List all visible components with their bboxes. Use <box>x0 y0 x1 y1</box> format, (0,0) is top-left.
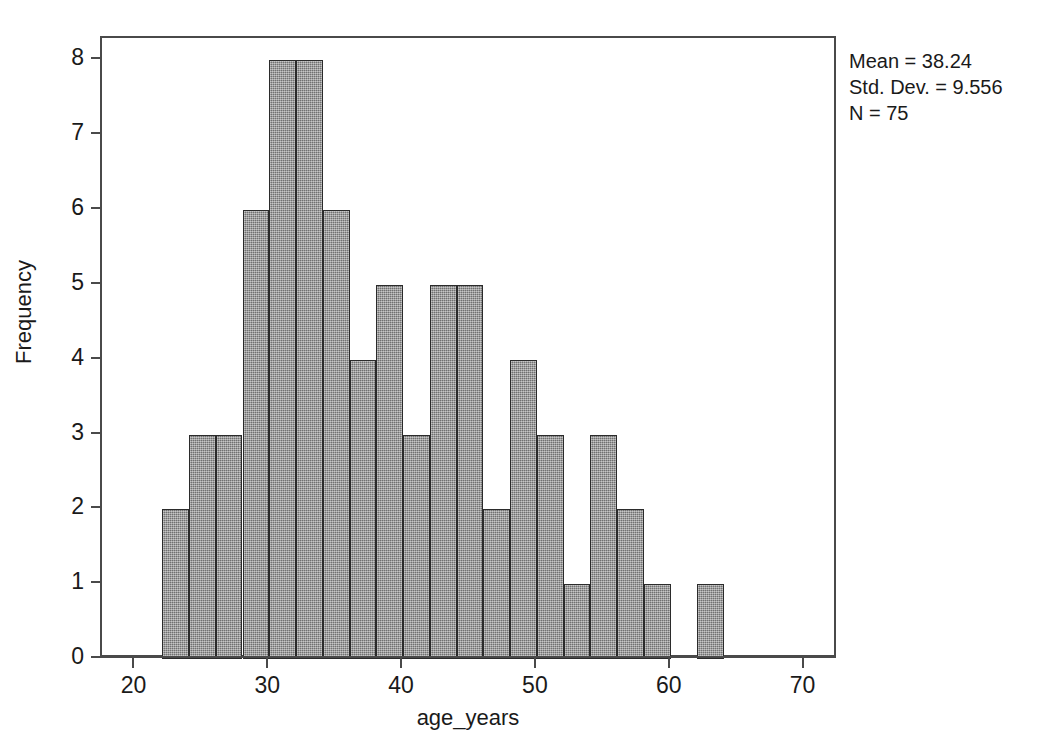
histogram-bar <box>350 360 377 659</box>
y-tick-mark <box>91 656 100 658</box>
y-axis-title: Frequency <box>12 222 36 402</box>
y-tick-label: 8 <box>0 46 84 69</box>
x-tick-mark <box>266 658 268 668</box>
histogram-bar <box>564 584 591 659</box>
x-tick-label: 60 <box>629 672 709 698</box>
y-tick-label: 3 <box>0 421 84 444</box>
y-tick-label: 6 <box>0 196 84 219</box>
histogram-bar <box>697 584 724 659</box>
x-axis-title: age_years <box>100 706 836 730</box>
y-tick-mark <box>91 357 100 359</box>
x-tick-mark <box>534 658 536 668</box>
stat-n: N = 75 <box>849 100 1003 126</box>
histogram-bar <box>323 210 350 659</box>
y-tick-mark <box>91 57 100 59</box>
histogram-bar <box>590 435 617 659</box>
histogram-bar <box>243 210 270 659</box>
y-tick-mark <box>91 581 100 583</box>
histogram-bar <box>617 509 644 659</box>
histogram-bar <box>510 360 537 659</box>
histogram-bar <box>483 509 510 659</box>
y-tick-mark <box>91 432 100 434</box>
histogram-bar <box>296 60 323 659</box>
x-tick-mark <box>400 658 402 668</box>
x-tick-mark <box>802 658 804 668</box>
x-tick-label: 30 <box>227 672 307 698</box>
x-tick-mark <box>668 658 670 668</box>
x-axis-line <box>100 656 836 658</box>
x-tick-label: 50 <box>495 672 575 698</box>
histogram-bar <box>403 435 430 659</box>
x-tick-mark <box>132 658 134 668</box>
y-tick-label: 1 <box>0 570 84 593</box>
y-tick-label: 7 <box>0 121 84 144</box>
bars-layer <box>102 38 838 659</box>
histogram-bar <box>216 435 243 659</box>
y-tick-mark <box>91 506 100 508</box>
histogram-bar <box>162 509 189 659</box>
y-tick-mark <box>91 132 100 134</box>
statistics-annotation: Mean = 38.24 Std. Dev. = 9.556 N = 75 <box>849 48 1003 126</box>
y-axis-line <box>100 36 102 657</box>
plot-area <box>100 36 836 657</box>
x-tick-label: 20 <box>93 672 173 698</box>
histogram-bar <box>457 285 484 659</box>
stat-mean: Mean = 38.24 <box>849 48 1003 74</box>
histogram-figure: 012345678 203040506070 Frequency age_yea… <box>0 0 1038 749</box>
histogram-bar <box>376 285 403 659</box>
y-tick-label: 2 <box>0 495 84 518</box>
y-tick-label: 0 <box>0 645 84 668</box>
histogram-bar <box>430 285 457 659</box>
x-tick-label: 40 <box>361 672 441 698</box>
stat-std-dev: Std. Dev. = 9.556 <box>849 74 1003 100</box>
y-tick-mark <box>91 207 100 209</box>
histogram-bar <box>537 435 564 659</box>
histogram-bar <box>644 584 671 659</box>
x-tick-label: 70 <box>763 672 843 698</box>
histogram-bar <box>269 60 296 659</box>
y-tick-mark <box>91 282 100 284</box>
histogram-bar <box>189 435 216 659</box>
